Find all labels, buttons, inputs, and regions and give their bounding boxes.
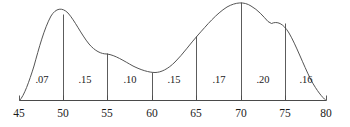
x-tick-label-6: 75 <box>279 107 291 119</box>
x-tick-label-7: 80 <box>320 107 332 119</box>
density-curve-path <box>20 3 327 101</box>
x-tick-label-1: 50 <box>57 107 69 119</box>
x-tick-label-5: 70 <box>235 107 247 119</box>
area-label-50-55: .15 <box>78 74 91 85</box>
area-label-70-75: .20 <box>256 74 269 85</box>
chart-canvas: 45 50 55 60 65 70 75 80 .07 .15 .10 .15 … <box>0 0 350 127</box>
area-label-75-80: .16 <box>299 74 312 85</box>
area-label-65-70: .17 <box>212 74 225 85</box>
x-tick-label-4: 65 <box>190 107 202 119</box>
x-tick-label-2: 55 <box>101 107 113 119</box>
area-label-55-60: .10 <box>123 74 136 85</box>
area-label-45-50: .07 <box>35 74 48 85</box>
x-tick-label-3: 60 <box>146 107 158 119</box>
density-curve-chart: 45 50 55 60 65 70 75 80 .07 .15 .10 .15 … <box>0 0 350 127</box>
x-tick-label-0: 45 <box>13 107 25 119</box>
area-label-60-65: .15 <box>167 74 180 85</box>
